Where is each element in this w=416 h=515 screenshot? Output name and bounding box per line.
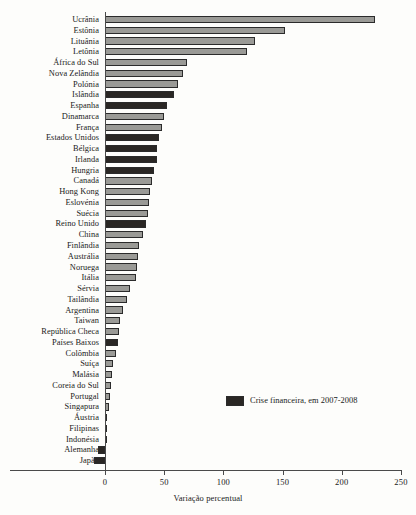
chart-bar <box>105 220 146 227</box>
chart-bar <box>105 102 167 109</box>
chart-bar <box>105 274 136 281</box>
category-label: Taiwan <box>0 315 99 326</box>
chart-row: Noruega <box>0 262 416 273</box>
chart-row: Reino Unido <box>0 218 416 229</box>
chart-bar <box>105 210 148 217</box>
chart-row: Colômbia <box>0 348 416 359</box>
chart-row: Hungria <box>0 165 416 176</box>
x-axis-tick-label: 200 <box>335 477 348 487</box>
x-axis-tick-label: 50 <box>160 477 169 487</box>
category-label: Hungria <box>0 165 99 176</box>
chart-row: Irlanda <box>0 154 416 165</box>
category-label: República Checa <box>0 326 99 337</box>
category-label: Lituânia <box>0 36 99 47</box>
chart-row: Espanha <box>0 100 416 111</box>
chart-row: Estados Unidos <box>0 132 416 143</box>
category-label: Dinamarca <box>0 111 99 122</box>
category-label: Estados Unidos <box>0 132 99 143</box>
chart-bar <box>105 145 157 152</box>
chart-bar <box>105 113 164 120</box>
category-label: Letônia <box>0 46 99 57</box>
chart-row: Coreia do Sul <box>0 380 416 391</box>
chart-row: Austrália <box>0 251 416 262</box>
x-axis-tick <box>105 470 106 475</box>
chart-row: Malásia <box>0 369 416 380</box>
chart-bar <box>105 124 162 131</box>
category-label: Ucrânia <box>0 14 99 25</box>
category-label: Países Baixos <box>0 337 99 348</box>
chart-bar <box>105 360 113 367</box>
chart-row: Ucrânia <box>0 14 416 25</box>
category-label: Austrália <box>0 251 99 262</box>
category-label: Hong Kong <box>0 186 99 197</box>
category-label: China <box>0 229 99 240</box>
x-axis-tick <box>342 470 343 475</box>
category-label: Coreia do Sul <box>0 380 99 391</box>
chart-row: Suécia <box>0 208 416 219</box>
chart-row: Islândia <box>0 89 416 100</box>
chart-row: Taiwan <box>0 315 416 326</box>
chart-bar <box>98 446 105 453</box>
x-axis-tick-label: 250 <box>394 477 407 487</box>
x-axis-tick-label: 100 <box>217 477 230 487</box>
chart-bar <box>105 59 187 66</box>
category-label: Indonésia <box>0 434 99 445</box>
category-label: Tailândia <box>0 294 99 305</box>
chart-legend: Crise financeira, em 2007-2008 <box>226 396 358 406</box>
chart-row: Suíça <box>0 358 416 369</box>
category-label: Singapura <box>0 401 99 412</box>
x-axis-tick <box>223 470 224 475</box>
x-axis-tick-label: 150 <box>276 477 289 487</box>
chart-row: Polónia <box>0 79 416 90</box>
category-label: Noruega <box>0 262 99 273</box>
chart-row: Japão <box>0 455 416 466</box>
chart-row: Argentina <box>0 305 416 316</box>
chart-row: Indonésia <box>0 434 416 445</box>
y-axis-line <box>105 12 106 470</box>
chart-bar <box>105 350 116 357</box>
category-label: Itália <box>0 272 99 283</box>
category-label: Suécia <box>0 208 99 219</box>
x-axis-title: Variação percentual <box>0 493 416 503</box>
chart-row: Alemanha <box>0 444 416 455</box>
x-axis-tick <box>401 470 402 475</box>
category-label: Islândia <box>0 89 99 100</box>
chart-bar <box>105 188 150 195</box>
chart-row: Itália <box>0 272 416 283</box>
chart-bar <box>105 371 112 378</box>
category-label: Áustria <box>0 412 99 423</box>
chart-bar <box>105 263 137 270</box>
chart-bar <box>105 339 118 346</box>
category-label: Argentina <box>0 305 99 316</box>
bar-chart: UcrâniaEstôniaLituâniaLetôniaÁfrica do S… <box>0 0 416 515</box>
chart-row: Finlândia <box>0 240 416 251</box>
chart-bar <box>105 27 285 34</box>
chart-row: Estônia <box>0 25 416 36</box>
chart-row: Eslovénia <box>0 197 416 208</box>
category-label: Bélgica <box>0 143 99 154</box>
chart-bar <box>105 37 255 44</box>
chart-row: Dinamarca <box>0 111 416 122</box>
chart-bar <box>105 296 127 303</box>
x-axis-tick <box>283 470 284 475</box>
x-axis-tick-label: 0 <box>103 477 107 487</box>
chart-row: Áustria <box>0 412 416 423</box>
chart-bar <box>105 91 174 98</box>
chart-row: Hong Kong <box>0 186 416 197</box>
x-axis-line <box>10 470 402 471</box>
category-label: África do Sul <box>0 57 99 68</box>
chart-bar <box>105 80 178 87</box>
category-label: Portugal <box>0 391 99 402</box>
chart-row: França <box>0 122 416 133</box>
chart-row: Canadá <box>0 175 416 186</box>
chart-bar <box>105 177 152 184</box>
chart-bar <box>105 48 247 55</box>
chart-row: República Checa <box>0 326 416 337</box>
category-label: Colômbia <box>0 348 99 359</box>
category-label: Reino Unido <box>0 218 99 229</box>
category-label: Finlândia <box>0 240 99 251</box>
chart-bar <box>105 156 157 163</box>
chart-bar <box>105 306 123 313</box>
chart-bar <box>94 457 105 464</box>
category-label: Sérvia <box>0 283 99 294</box>
